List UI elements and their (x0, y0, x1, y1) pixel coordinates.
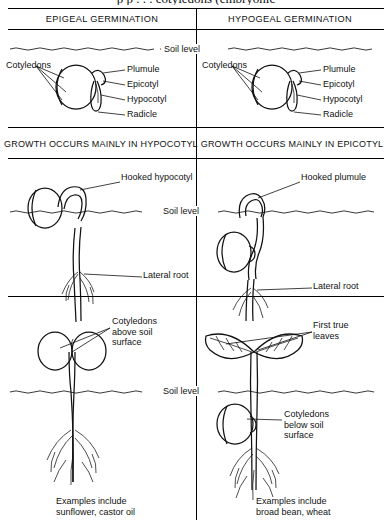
label-cotyledons-below-soil: Cotyledons below soil surface (284, 409, 346, 441)
soil-line-stage3 (10, 391, 142, 393)
examples-hypogeal: Examples include broad bean, wheat (256, 496, 331, 518)
label-cotyledons-above-soil: Cotyledons above soil surface (112, 316, 184, 348)
germination-comparison-figure: p p . . . cotyledons (embryonic EPIGEAL … (0, 0, 392, 520)
examples-epigeal: Examples include sunflower, castor oil (56, 496, 135, 518)
soil-level-label-stage3: Soil level (160, 386, 202, 396)
label-first-true-leaves: First true leaves (313, 320, 373, 341)
seedling-epigeal-stage3 (38, 332, 106, 485)
stage3-artwork (0, 0, 392, 520)
